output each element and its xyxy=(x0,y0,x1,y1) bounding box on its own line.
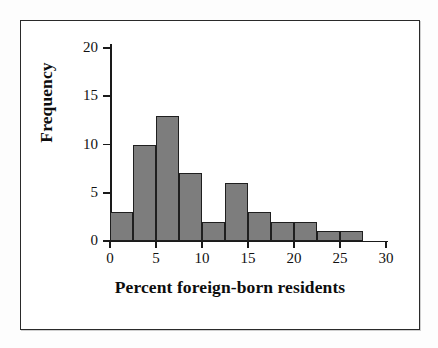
x-axis-tick xyxy=(247,241,249,248)
x-axis-tick-label: 10 xyxy=(187,251,217,266)
x-axis-tick-label: 0 xyxy=(95,251,125,266)
y-axis-tick xyxy=(103,95,110,97)
x-axis-tick xyxy=(293,241,295,248)
x-axis-tick-label: 30 xyxy=(371,251,401,266)
y-axis-tick xyxy=(103,47,110,49)
x-axis-tick xyxy=(201,241,203,248)
histogram-bar xyxy=(156,116,179,241)
y-axis-tick-label: 0 xyxy=(72,233,98,248)
y-axis-tick-label: 10 xyxy=(72,137,98,152)
x-axis-tick xyxy=(109,241,111,248)
histogram-bar xyxy=(340,231,363,241)
x-axis-tick xyxy=(155,241,157,248)
y-axis-tick-label: 20 xyxy=(72,40,98,55)
histogram-bar xyxy=(317,231,340,241)
histogram-bar xyxy=(271,222,294,241)
histogram-bar xyxy=(202,222,225,241)
x-axis-tick-label: 5 xyxy=(141,251,171,266)
histogram-bar xyxy=(248,212,271,241)
x-axis-tick-label: 25 xyxy=(325,251,355,266)
histogram-bar xyxy=(179,173,202,241)
x-axis-tick-label: 15 xyxy=(233,251,263,266)
y-axis-title: Frequency xyxy=(36,43,57,163)
histogram-bar xyxy=(133,145,156,242)
y-axis-tick-label: 5 xyxy=(72,185,98,200)
x-axis-title: Percent foreign-born residents xyxy=(60,277,400,298)
histogram-plot: 05101520 051015202530 Frequency Percent … xyxy=(0,0,438,348)
histogram-bar xyxy=(110,212,133,241)
x-axis-tick xyxy=(339,241,341,248)
histogram-bar xyxy=(294,222,317,241)
histogram-bar xyxy=(225,183,248,241)
y-axis-tick xyxy=(103,144,110,146)
scanned-page: 05101520 051015202530 Frequency Percent … xyxy=(0,0,438,348)
x-axis-tick-label: 20 xyxy=(279,251,309,266)
y-axis-tick-label: 15 xyxy=(72,88,98,103)
x-axis-tick xyxy=(385,241,387,248)
y-axis-tick xyxy=(103,192,110,194)
